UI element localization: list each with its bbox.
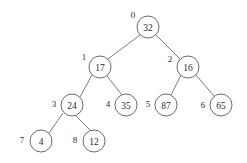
node-value-4: 35 bbox=[121, 101, 131, 111]
node-index-label-5: 5 bbox=[146, 99, 151, 109]
node-index-label-7: 7 bbox=[20, 135, 25, 145]
node-value-1: 17 bbox=[95, 63, 105, 73]
tree-node-7[interactable]: 47 bbox=[20, 130, 52, 152]
node-index-label-2: 2 bbox=[168, 54, 173, 64]
node-index-label-8: 8 bbox=[73, 135, 78, 145]
tree-edge-2-6 bbox=[196, 75, 214, 96]
tree-node-8[interactable]: 128 bbox=[73, 130, 105, 152]
tree-node-4[interactable]: 354 bbox=[106, 94, 137, 116]
node-index-label-6: 6 bbox=[201, 100, 206, 110]
node-value-2: 16 bbox=[183, 63, 193, 73]
node-value-0: 32 bbox=[143, 23, 153, 33]
tree-edge-1-4 bbox=[107, 76, 122, 95]
tree-edge-2-5 bbox=[171, 75, 181, 95]
tree-nodes-group: 32017116224335487565647128 bbox=[20, 10, 232, 152]
tree-edge-1-3 bbox=[80, 75, 92, 97]
node-value-7: 4 bbox=[39, 137, 44, 147]
node-value-6: 65 bbox=[216, 101, 226, 111]
node-index-label-1: 1 bbox=[82, 52, 87, 62]
tree-node-6[interactable]: 656 bbox=[201, 94, 232, 116]
tree-edge-3-7 bbox=[49, 113, 63, 133]
tree-node-2[interactable]: 162 bbox=[168, 54, 199, 78]
tree-canvas: 32017116224335487565647128 bbox=[0, 0, 247, 163]
node-index-label-0: 0 bbox=[131, 10, 136, 20]
tree-edge-0-1 bbox=[108, 35, 140, 59]
tree-edges-group bbox=[49, 35, 214, 133]
tree-node-1[interactable]: 171 bbox=[82, 52, 111, 78]
node-value-8: 12 bbox=[89, 137, 99, 147]
tree-edge-3-8 bbox=[76, 116, 91, 131]
node-value-5: 87 bbox=[161, 101, 171, 111]
node-value-3: 24 bbox=[67, 101, 77, 111]
tree-node-3[interactable]: 243 bbox=[52, 94, 83, 116]
tree-node-5[interactable]: 875 bbox=[146, 94, 177, 116]
node-index-label-4: 4 bbox=[106, 99, 111, 109]
node-index-label-3: 3 bbox=[52, 99, 57, 109]
binary-tree-figure: 32017116224335487565647128 bbox=[0, 0, 247, 163]
tree-node-0[interactable]: 320 bbox=[131, 10, 159, 38]
